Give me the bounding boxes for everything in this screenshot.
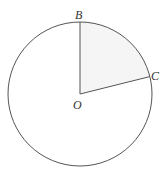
label-c: C: [151, 69, 160, 83]
label-b: B: [75, 8, 83, 22]
label-o: O: [73, 98, 82, 112]
circle-diagram: B C O: [0, 0, 166, 178]
shaded-sector: [80, 22, 150, 94]
